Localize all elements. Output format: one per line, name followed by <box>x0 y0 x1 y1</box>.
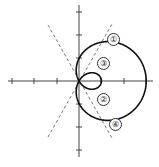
label-4: ④ <box>109 118 122 131</box>
axes <box>8 5 153 157</box>
limacon-diagram <box>0 0 159 167</box>
label-1: ① <box>107 33 120 46</box>
label-2: ② <box>97 93 110 106</box>
label-3: ③ <box>97 57 110 70</box>
